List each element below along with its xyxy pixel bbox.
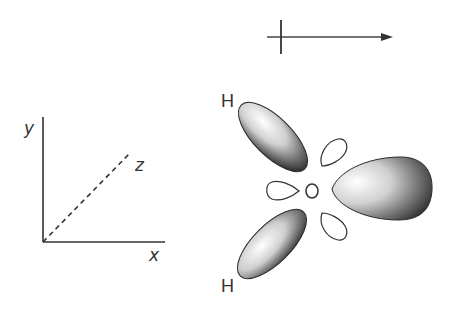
- x-axis-label: x: [148, 245, 160, 265]
- lobe-upper-left: [228, 92, 319, 183]
- lobe-small-lower: [321, 213, 347, 240]
- diagram-canvas: y z x O H H: [0, 0, 455, 309]
- dipole-arrow-head-icon: [381, 33, 393, 41]
- hydrogen-top-label: H: [221, 91, 234, 111]
- coordinate-axes: y z x: [23, 117, 165, 265]
- water-orbital-diagram: O H H: [221, 91, 432, 296]
- hydrogen-bottom-label: H: [221, 276, 234, 296]
- lobe-lower-left: [227, 199, 318, 290]
- z-axis-label: z: [134, 155, 145, 175]
- dipole-arrow: [267, 20, 393, 54]
- y-axis-label: y: [23, 118, 35, 138]
- lobe-small-left: [267, 181, 299, 199]
- z-axis: [43, 153, 130, 242]
- lobe-small-upper: [321, 139, 347, 166]
- lobe-right: [332, 157, 432, 220]
